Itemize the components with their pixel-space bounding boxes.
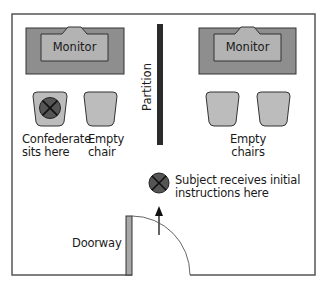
chair-empty-right-2 — [257, 92, 290, 126]
empty-chair-label: Empty chair — [88, 133, 124, 159]
arrow-up-icon — [155, 206, 163, 235]
empty-chair-label-line2: chair — [88, 146, 124, 159]
confederate-marker-icon — [40, 98, 61, 119]
monitor-right-label: Monitor — [214, 41, 281, 54]
partition-label: Partition — [141, 63, 154, 111]
doorway-label: Doorway — [72, 237, 122, 250]
partition-wall — [157, 24, 163, 145]
confederate-label: Confederate sits here — [22, 133, 91, 159]
confederate-label-line2: sits here — [22, 146, 91, 159]
empty-chairs-label: Empty chairs — [223, 133, 273, 159]
door-swing-arc — [132, 216, 190, 275]
subject-label: Subject receives initial instructions he… — [175, 174, 300, 200]
chair-empty-right-1 — [206, 92, 239, 126]
chair-empty-left — [84, 92, 117, 126]
subject-label-line2: instructions here — [175, 187, 300, 200]
door-leaf — [126, 216, 132, 275]
monitor-left-label: Monitor — [41, 41, 108, 54]
room-floor-plan: Monitor Monitor Partition Confederate si… — [0, 0, 333, 290]
empty-chairs-label-line2: chairs — [223, 146, 273, 159]
subject-marker-icon — [149, 173, 169, 193]
